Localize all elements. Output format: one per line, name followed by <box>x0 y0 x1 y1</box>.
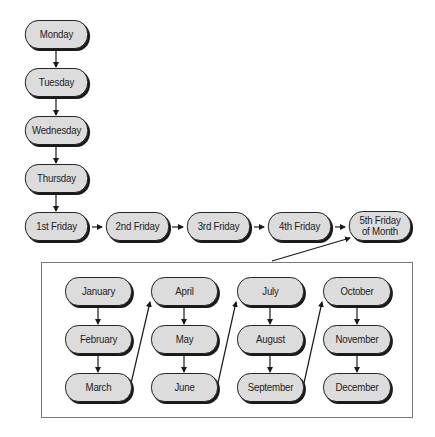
node-october: October <box>323 277 391 306</box>
node-january: January <box>65 277 132 306</box>
node-3rd-friday: 3rd Friday <box>187 212 250 241</box>
node-august: August <box>237 325 304 354</box>
node-label: 3rd Friday <box>198 221 240 232</box>
node-1st-friday: 1st Friday <box>25 212 88 241</box>
node-label: Wednesday <box>32 125 81 136</box>
node-label: 1st Friday <box>36 221 77 232</box>
node-label: March <box>86 382 112 393</box>
node-5th-friday-of-month: 5th Friday of Month <box>349 211 412 241</box>
node-march: March <box>65 373 132 402</box>
node-label: 4th Friday <box>279 221 320 232</box>
node-label: November <box>335 334 378 345</box>
node-label: Tuesday <box>39 77 74 88</box>
node-label: May <box>176 334 194 345</box>
node-wednesday: Wednesday <box>25 116 88 145</box>
node-label: Monday <box>40 29 73 40</box>
node-february: February <box>65 325 132 354</box>
node-july: July <box>237 277 304 306</box>
node-label: 2nd Friday <box>116 221 160 232</box>
node-november: November <box>323 325 391 354</box>
node-label: July <box>262 286 278 297</box>
node-tuesday: Tuesday <box>25 68 88 97</box>
node-2nd-friday: 2nd Friday <box>106 212 169 241</box>
node-september: September <box>237 373 304 402</box>
node-label: April <box>175 286 193 297</box>
node-label: December <box>335 382 378 393</box>
node-label: August <box>256 334 285 345</box>
node-4th-friday: 4th Friday <box>268 212 331 241</box>
node-december: December <box>323 373 391 402</box>
node-label-line2: of Month <box>362 226 398 237</box>
node-label: February <box>80 334 117 345</box>
node-april: April <box>151 277 218 306</box>
node-may: May <box>151 325 218 354</box>
node-label: Thursday <box>37 173 76 184</box>
rotation-schedule-diagram: Monday Tuesday Wednesday Thursday 1st Fr… <box>0 0 435 437</box>
node-label: September <box>248 382 294 393</box>
node-thursday: Thursday <box>25 164 88 193</box>
node-label: June <box>174 382 194 393</box>
node-june: June <box>151 373 218 402</box>
node-label: January <box>82 286 115 297</box>
node-label: October <box>340 286 373 297</box>
node-monday: Monday <box>25 20 88 49</box>
